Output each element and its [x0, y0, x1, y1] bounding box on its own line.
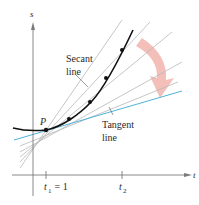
s-axis-label: s: [30, 9, 34, 19]
position-curve: [13, 30, 133, 131]
point-p-label: P: [39, 116, 46, 127]
secant-label-line1: Secant: [66, 53, 93, 64]
secant-lines: [20, 20, 182, 168]
t-axis-label: t: [193, 170, 196, 180]
t-axis: [12, 173, 192, 177]
t1-equals: = 1: [52, 181, 68, 192]
s-axis: [31, 22, 35, 196]
rotation-arrow-icon: [136, 38, 174, 98]
t2-subscript: 2: [123, 187, 127, 195]
tangent-label-line2: line: [102, 132, 118, 143]
tangent-label-line1: Tangent: [102, 119, 134, 130]
secant-tangent-diagram: s t P Secant line Tangent line t 1 = 1 t…: [0, 0, 199, 205]
t2-label: t: [119, 181, 122, 192]
secant-label-line2: line: [66, 66, 82, 77]
t1-label: t: [44, 181, 47, 192]
